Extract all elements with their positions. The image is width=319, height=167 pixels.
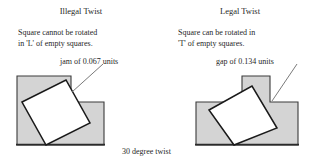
leader-line-jam bbox=[72, 64, 103, 92]
figure-root: Illegal Twist Legal Twist Square cannot … bbox=[0, 0, 319, 167]
leader-line-gap bbox=[272, 64, 297, 101]
diagram-canvas bbox=[0, 0, 319, 167]
